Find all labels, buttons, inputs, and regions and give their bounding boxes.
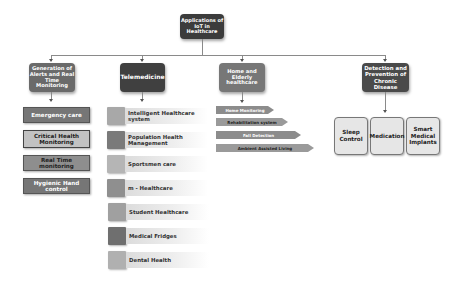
item-student-healthcare: Student Healthcare — [108, 203, 209, 221]
item-label: Medication — [370, 133, 405, 140]
item-bar: Intelligent Healthcare system — [125, 108, 208, 124]
item-real-time-monitoring: Real Time monitoring — [23, 155, 90, 171]
item-label: Real Time monitoring — [24, 157, 89, 170]
arrow-icon — [49, 59, 53, 62]
square-icon — [107, 179, 125, 197]
item-intelligent-healthcare: Intelligent Healthcare system — [107, 107, 208, 125]
square-icon — [108, 251, 126, 269]
arrow-icon — [383, 110, 387, 113]
item-label: Dental Health — [129, 257, 171, 263]
item-emergency-care: Emergency care — [23, 107, 90, 123]
item-label: Ambient Assisted Living — [238, 146, 292, 151]
item-label: Home Monitoring — [225, 108, 264, 113]
square-icon — [107, 131, 125, 149]
item-bar: Medical Fridges — [126, 228, 209, 244]
item-label: Rehabilitation system — [227, 120, 276, 125]
root-label: Applications of IoT in Healthcare — [180, 18, 224, 35]
item-smart-medical-implants: Smart Medical Implants — [406, 117, 440, 155]
item-bar: Dental Health — [126, 252, 209, 268]
item-label: Smart Medical Implants — [407, 126, 439, 146]
item-label: Emergency care — [31, 112, 82, 118]
item-sleep-control: Sleep Control — [334, 117, 368, 155]
item-sportsmen-care: Sportsmen care — [107, 155, 208, 173]
branch-line — [51, 55, 386, 56]
square-icon — [108, 227, 126, 245]
category-chronic-disease: Detection and Prevention of Chronic Dise… — [362, 63, 409, 92]
category-label: Home and Elderly healthcare — [219, 69, 265, 87]
item-label: Hygienic Hand control — [24, 180, 89, 193]
category-telemedicine: Telemedicine — [120, 63, 165, 92]
item-medication: Medication — [370, 117, 404, 155]
item-critical-health-monitoring: Critical Health Monitoring — [23, 130, 90, 148]
item-label: Critical Health Monitoring — [24, 133, 89, 146]
arrow-icon — [240, 100, 244, 103]
arrow-icon — [383, 59, 387, 62]
root-node: Applications of IoT in Healthcare — [180, 14, 224, 39]
item-label: Student Healthcare — [129, 209, 188, 215]
item-rehabilitation-system: Rehabilitation system — [216, 118, 288, 126]
category-alerts-monitoring: Generation of Alerts and Real Time Monit… — [29, 63, 75, 92]
item-bar: Sportsmen care — [125, 156, 208, 172]
connector-4 — [385, 92, 386, 112]
item-bar: Student Healthcare — [126, 204, 209, 220]
category-home-elderly: Home and Elderly healthcare — [219, 63, 265, 92]
root-connector — [202, 39, 203, 55]
item-label: Sleep Control — [335, 129, 367, 142]
item-fall-detection: Fall Detection — [216, 131, 301, 139]
arrow-icon — [49, 99, 53, 102]
item-m-healthcare: m - Healthcare — [107, 179, 208, 197]
item-label: Fall Detection — [243, 133, 274, 138]
square-icon — [108, 203, 126, 221]
item-population-health: Population Health Management — [107, 131, 208, 149]
item-label: m - Healthcare — [128, 185, 173, 191]
item-label: Intelligent Healthcare system — [128, 110, 208, 122]
square-icon — [107, 155, 125, 173]
category-label: Detection and Prevention of Chronic Dise… — [362, 65, 409, 90]
item-ambient-assisted-living: Ambient Assisted Living — [216, 144, 314, 152]
square-icon — [107, 107, 125, 125]
category-label: Generation of Alerts and Real Time Monit… — [29, 66, 75, 90]
arrow-icon — [140, 59, 144, 62]
item-label: Sportsmen care — [128, 161, 176, 167]
item-bar: Population Health Management — [125, 132, 208, 148]
item-dental-health: Dental Health — [108, 251, 209, 269]
arrow-icon — [140, 99, 144, 102]
category-label: Telemedicine — [120, 74, 164, 81]
item-label: Population Health Management — [128, 134, 208, 146]
item-home-monitoring: Home Monitoring — [216, 106, 274, 114]
item-label: Medical Fridges — [129, 233, 177, 239]
item-bar: m - Healthcare — [125, 180, 208, 196]
arrow-icon — [240, 59, 244, 62]
item-hygienic-hand-control: Hygienic Hand control — [23, 178, 90, 194]
item-medical-fridges: Medical Fridges — [108, 227, 209, 245]
